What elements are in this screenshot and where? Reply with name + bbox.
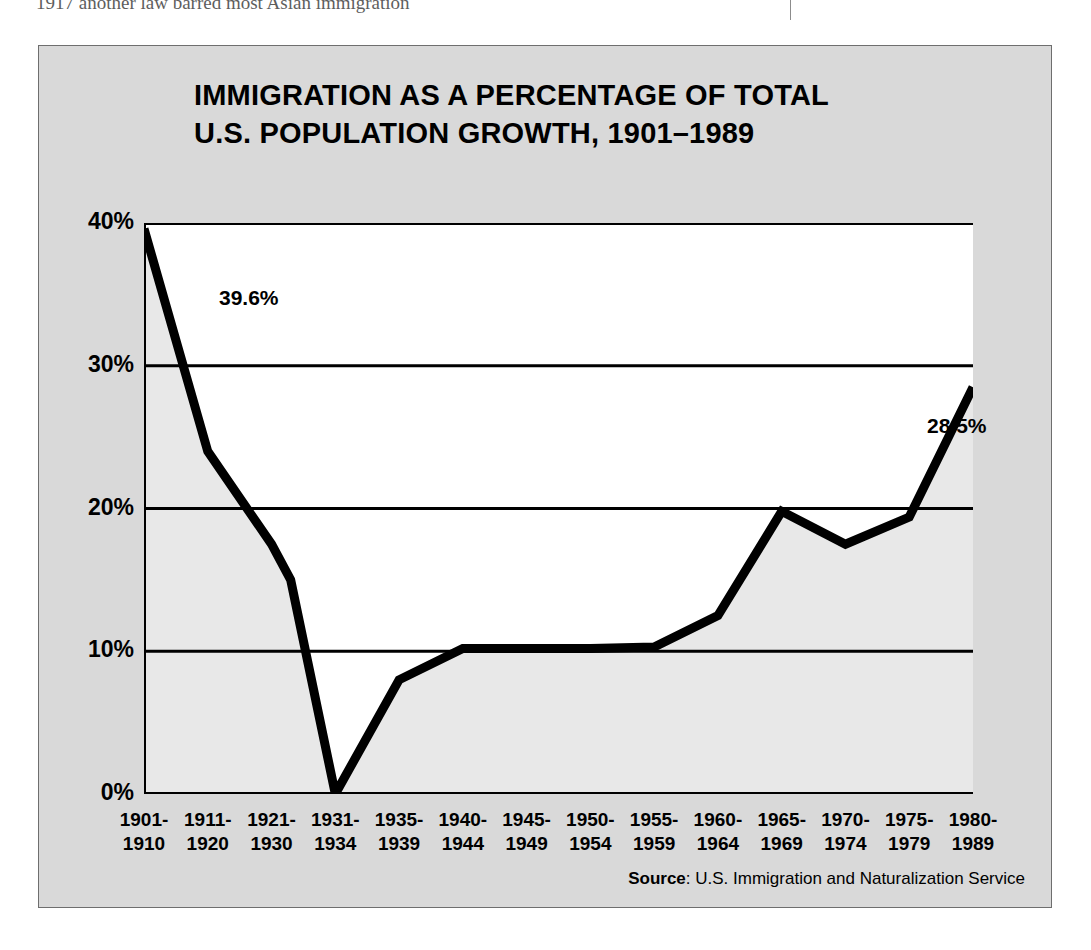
x-axis-tick-label-line: 1989 [949, 832, 998, 856]
x-axis-tick-label-1945-1949: 1945-1949 [502, 808, 551, 857]
x-axis-tick-label-line: 1964 [694, 832, 743, 856]
x-axis-tick-label-line: 1980- [949, 808, 998, 832]
x-axis-tick-label-line: 1960- [694, 808, 743, 832]
x-axis-tick-label-line: 1911- [184, 808, 232, 832]
x-axis-tick-label-line: 1939 [375, 832, 424, 856]
y-axis-labels: 0%10%20%30%40% [39, 46, 134, 909]
chart-figure: IMMIGRATION AS A PERCENTAGE OF TOTAL U.S… [38, 45, 1052, 908]
x-axis-tick-label-line: 1945- [502, 808, 551, 832]
y-axis-tick-label-20: 20% [88, 494, 134, 521]
x-axis-tick-label-1965-1969: 1965-1969 [757, 808, 806, 857]
source-separator: : [686, 869, 695, 888]
x-axis-tick-label-1980-1989: 1980-1989 [949, 808, 998, 857]
x-axis-tick-label-1960-1964: 1960-1964 [694, 808, 743, 857]
x-axis-tick-label-1940-1944: 1940-1944 [439, 808, 488, 857]
x-axis-tick-label-line: 1959 [630, 832, 679, 856]
x-axis-tick-label-line: 1969 [757, 832, 806, 856]
chart-title-line-2: U.S. POPULATION GROWTH, 1901–1989 [194, 115, 984, 153]
x-axis-tick-label-1911-1920: 1911-1920 [184, 808, 232, 857]
data-label-first: 39.6% [219, 286, 279, 310]
data-label-last: 28.5% [927, 414, 987, 438]
x-axis-tick-label-line: 1930 [247, 832, 296, 856]
chart-title-line-1: IMMIGRATION AS A PERCENTAGE OF TOTAL [194, 77, 984, 115]
x-axis-tick-label-line: 1974 [821, 832, 870, 856]
x-axis-tick-label-line: 1901- [120, 808, 169, 832]
x-axis-tick-label-1921-1930: 1921-1930 [247, 808, 296, 857]
x-axis-tick-label-1935-1939: 1935-1939 [375, 808, 424, 857]
x-axis-tick-label-line: 1965- [757, 808, 806, 832]
x-axis-tick-label-line: 1935- [375, 808, 424, 832]
chart-title: IMMIGRATION AS A PERCENTAGE OF TOTAL U.S… [194, 77, 984, 152]
x-axis-tick-label-1931-1934: 1931-1934 [311, 808, 360, 857]
x-axis-tick-label-line: 1979 [885, 832, 934, 856]
x-axis-tick-label-line: 1950- [566, 808, 615, 832]
x-axis-tick-label-1975-1979: 1975-1979 [885, 808, 934, 857]
y-axis-tick-label-0: 0% [101, 779, 134, 806]
source-note: Source: U.S. Immigration and Naturalizat… [628, 869, 1025, 889]
x-axis-tick-label-1955-1959: 1955-1959 [630, 808, 679, 857]
x-axis-tick-label-line: 1934 [311, 832, 360, 856]
x-axis-tick-label-line: 1921- [247, 808, 296, 832]
column-divider-rule [790, 0, 791, 20]
page-body-text-fragment: 1917 another law barred most Asian immig… [36, 0, 736, 14]
x-axis-tick-label-line: 1940- [439, 808, 488, 832]
x-axis-tick-label-line: 1920 [184, 832, 232, 856]
y-axis-tick-label-10: 10% [88, 636, 134, 663]
x-axis-tick-label-1901-1910: 1901-1910 [120, 808, 169, 857]
source-label: Source [628, 869, 686, 888]
x-axis-tick-label-line: 1975- [885, 808, 934, 832]
x-axis-tick-label-line: 1931- [311, 808, 360, 832]
x-axis-tick-label-1970-1974: 1970-1974 [821, 808, 870, 857]
x-axis-tick-label-line: 1949 [502, 832, 551, 856]
x-axis-tick-label-line: 1970- [821, 808, 870, 832]
y-axis-tick-label-30: 30% [88, 351, 134, 378]
x-axis-tick-label-line: 1910 [120, 832, 169, 856]
x-axis-tick-label-line: 1944 [439, 832, 488, 856]
y-axis-tick-label-40: 40% [88, 208, 134, 235]
x-axis-tick-label-line: 1954 [566, 832, 615, 856]
x-axis-tick-label-1950-1954: 1950-1954 [566, 808, 615, 857]
source-text: U.S. Immigration and Naturalization Serv… [695, 869, 1025, 888]
x-axis-tick-label-line: 1955- [630, 808, 679, 832]
